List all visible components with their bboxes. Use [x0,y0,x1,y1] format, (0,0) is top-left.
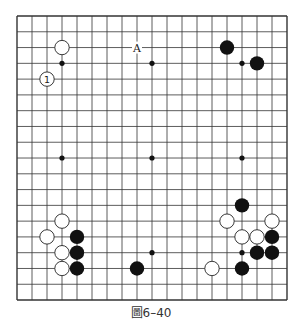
star-point [239,155,244,160]
star-point [239,250,244,255]
star-point [239,61,244,66]
white-stone [205,261,219,275]
white-stone [250,230,264,244]
white-stone [55,214,69,228]
star-point [59,61,64,66]
black-stone [235,198,249,212]
black-stone [265,246,279,260]
white-stone [235,230,249,244]
white-stone [55,246,69,260]
white-stone [265,214,279,228]
go-board: A1 [0,0,302,302]
black-stone [265,230,279,244]
figure-caption: 圖6–40 [0,303,302,320]
star-point [149,155,154,160]
white-stone [55,261,69,275]
position-label-a: A [132,42,142,55]
white-stone [55,40,69,54]
move-number: 1 [44,74,50,85]
black-stone [70,261,84,275]
white-stone [40,230,54,244]
star-point [149,250,154,255]
black-stone [250,56,264,70]
star-point [59,155,64,160]
black-stone [235,261,249,275]
black-stone [70,230,84,244]
black-stone [220,40,234,54]
black-stone [250,246,264,260]
star-point [149,61,154,66]
black-stone [130,261,144,275]
white-stone [220,214,234,228]
black-stone [70,246,84,260]
